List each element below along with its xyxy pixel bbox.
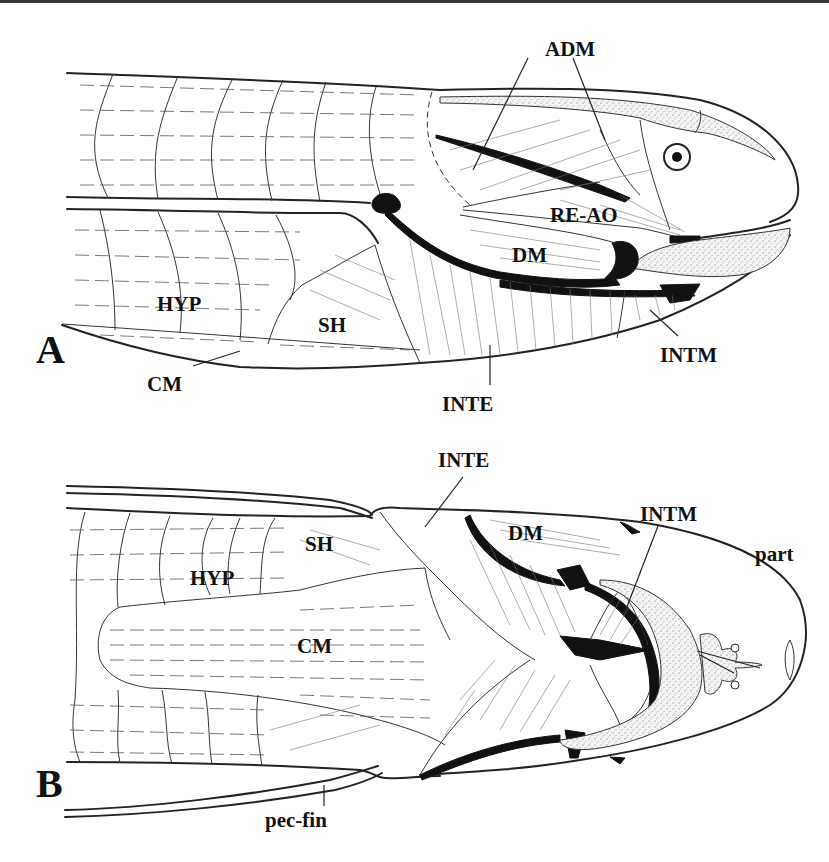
label-dm-a: DM bbox=[512, 243, 547, 267]
label-inte-b: INTE bbox=[438, 448, 489, 472]
label-hyp-b: HYP bbox=[190, 566, 235, 590]
label-pec-fin: pec-fin bbox=[265, 808, 327, 832]
label-cm-a: CM bbox=[147, 372, 182, 396]
label-sh-a: SH bbox=[318, 313, 346, 337]
panel-label-a: A bbox=[36, 327, 65, 372]
label-hyp-a: HYP bbox=[157, 292, 202, 316]
epaxial-fibers bbox=[75, 85, 420, 350]
label-cm-b: CM bbox=[297, 634, 332, 658]
eye-icon bbox=[664, 144, 690, 170]
label-adm: ADM bbox=[545, 37, 595, 61]
panel-label-b: B bbox=[36, 761, 63, 806]
label-inte-a: INTE bbox=[442, 392, 493, 416]
label-re-ao: RE-AO bbox=[550, 203, 618, 227]
label-sh-b: SH bbox=[305, 532, 333, 556]
part-structure bbox=[700, 634, 762, 694]
hyp-fibers-b bbox=[70, 528, 380, 755]
label-dm-b: DM bbox=[508, 521, 543, 545]
label-intm-b: INTM bbox=[640, 502, 697, 526]
label-part: part bbox=[755, 542, 794, 566]
anatomy-figure: A ADM RE-AO DM HYP SH INTM CM INTE bbox=[0, 0, 829, 862]
cm-fibers bbox=[110, 605, 430, 718]
panel-b: B INTE DM INTM SH HYP part CM pec-fin bbox=[36, 448, 806, 832]
panel-a: A ADM RE-AO DM HYP SH INTM CM INTE bbox=[36, 37, 798, 416]
label-intm-a: INTM bbox=[660, 343, 717, 367]
